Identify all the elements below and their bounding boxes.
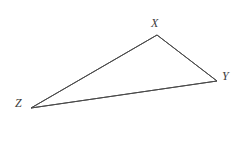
triangle-drawing bbox=[0, 0, 241, 148]
vertex-label-y: Y bbox=[222, 70, 229, 82]
vertex-label-x: X bbox=[151, 17, 158, 29]
edge-yz bbox=[31, 81, 217, 108]
edge-xy bbox=[157, 35, 217, 81]
edge-zx bbox=[31, 35, 157, 108]
vertex-label-z: Z bbox=[15, 97, 22, 109]
triangle-xyz bbox=[31, 35, 217, 108]
triangle-figure: X Y Z bbox=[0, 0, 241, 148]
